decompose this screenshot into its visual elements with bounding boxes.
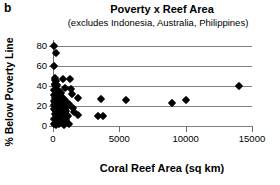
x-tick [252, 126, 253, 132]
data-point [235, 82, 243, 90]
data-point [50, 62, 58, 70]
y-tick-label: 20 [36, 101, 47, 111]
x-tick-label: 5000 [109, 134, 130, 144]
gridline [53, 126, 252, 127]
chart-subtitle: (excludes Indonesia, Australia, Philippi… [36, 17, 280, 28]
y-tick-label: 0 [42, 121, 47, 131]
panel-letter: b [4, 2, 11, 14]
plot-area: 020406080 050001000015000 [53, 46, 252, 126]
data-point [74, 111, 82, 119]
x-tick [119, 126, 120, 132]
gridline [53, 46, 252, 47]
data-point [182, 96, 190, 104]
data-point [122, 96, 130, 104]
y-tick-label: 60 [36, 61, 47, 71]
x-tick-label: 0 [50, 134, 55, 144]
y-axis-title: % Below Poverty Line [3, 27, 15, 157]
data-point [99, 112, 107, 120]
gridline [53, 86, 252, 87]
y-tick-label: 80 [36, 41, 47, 51]
x-tick-label: 10000 [172, 134, 198, 144]
x-tick-label: 15000 [239, 134, 265, 144]
x-tick [186, 126, 187, 132]
data-point [66, 75, 74, 83]
data-point [97, 95, 105, 103]
figure-panel: b Poverty x Reef Area (excludes Indonesi… [0, 0, 280, 185]
gridline [53, 106, 252, 107]
gridline [53, 66, 252, 67]
y-tick-label: 40 [36, 81, 47, 91]
x-axis-title: Coral Reef Area (sq km) [46, 162, 278, 175]
chart-title: Poverty x Reef Area [46, 3, 278, 16]
